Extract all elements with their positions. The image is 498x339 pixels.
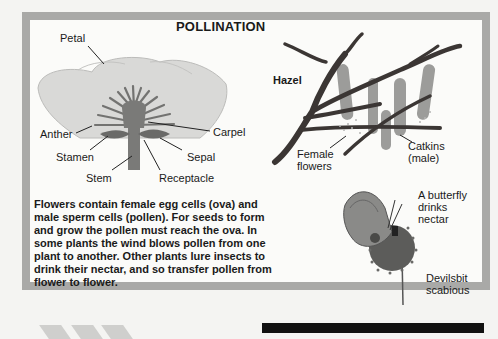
label-petal: Petal xyxy=(60,32,85,44)
label-female-flowers-line1: Female xyxy=(297,148,334,160)
body-paragraph: Flowers contain female egg cells (ova) a… xyxy=(34,198,324,289)
label-sepal: Sepal xyxy=(187,151,215,163)
label-butterfly-line1: A butterfly xyxy=(418,189,467,201)
label-scabious-line1: Devilsbit xyxy=(426,272,468,284)
label-scabious-line2: scabious xyxy=(426,284,469,296)
page-title: POLLINATION xyxy=(176,19,265,34)
label-catkins-line2: (male) xyxy=(408,152,439,164)
body-line: plant to another. Other plants lure inse… xyxy=(34,250,324,263)
body-line: and grow the pollen must reach the ova. … xyxy=(34,224,324,237)
body-line: some plants the wind blows pollen from o… xyxy=(34,237,324,250)
label-catkins-line1: Catkins xyxy=(408,140,445,152)
label-receptacle: Receptacle xyxy=(159,172,214,184)
label-hazel: Hazel xyxy=(273,74,302,86)
label-butterfly-line2: drinks xyxy=(418,201,447,213)
label-anther: Anther xyxy=(40,128,72,140)
label-carpel: Carpel xyxy=(213,126,245,138)
body-line: Flowers contain female egg cells (ova) a… xyxy=(34,198,324,211)
label-butterfly-line3: nectar xyxy=(418,213,449,225)
butterfly-on-scabious-illustration xyxy=(344,192,418,305)
label-female-flowers-line2: flowers xyxy=(297,160,332,172)
label-stamen: Stamen xyxy=(56,151,94,163)
decorative-black-bar xyxy=(262,323,484,333)
body-line: male sperm cells (pollen). For seeds to … xyxy=(34,211,324,224)
label-stem: Stem xyxy=(86,172,112,184)
body-line: drink their nectar, and so transfer poll… xyxy=(34,263,324,276)
body-line: flower to flower. xyxy=(34,276,324,289)
